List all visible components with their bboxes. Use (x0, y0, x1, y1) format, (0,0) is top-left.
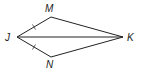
vertex-label-m: M (45, 3, 54, 14)
segment-mk (51, 17, 123, 37)
tick-mark-nj (32, 44, 35, 49)
segment-kn (51, 37, 123, 57)
kite-diagram: J M K N (0, 0, 142, 71)
tick-mark-jm (32, 24, 35, 29)
segments (17, 17, 123, 57)
vertex-label-n: N (46, 59, 54, 70)
vertex-label-k: K (127, 32, 135, 43)
vertex-label-j: J (4, 32, 11, 43)
